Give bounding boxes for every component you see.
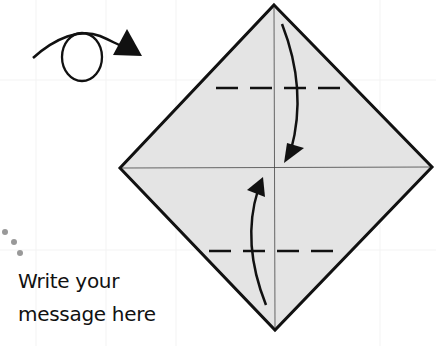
decorative-dots xyxy=(2,229,23,256)
message-placeholder: Write your message here xyxy=(18,265,156,331)
turn-over-icon xyxy=(33,29,142,81)
message-line-1: Write your xyxy=(18,265,156,298)
message-line-2: message here xyxy=(18,298,156,331)
